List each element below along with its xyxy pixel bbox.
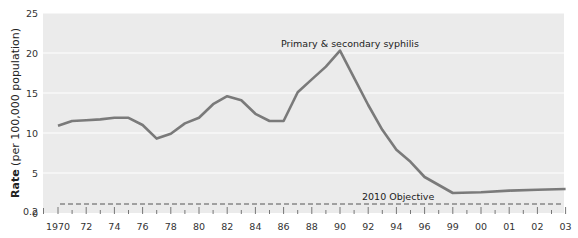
x-tick-label: 90 (334, 221, 346, 232)
y-tick-label: 25 (26, 8, 38, 19)
x-tick-label: 00 (475, 221, 487, 232)
x-tick-label: 99 (447, 221, 459, 232)
objective-label: 2010 Objective (362, 191, 434, 202)
x-tick-label: 01 (503, 221, 515, 232)
x-tick-label: 86 (278, 221, 290, 232)
x-tick-label: 78 (165, 221, 177, 232)
x-tick-label: 1970 (46, 221, 70, 232)
x-tick-label: 88 (306, 221, 318, 232)
x-tick-label: 94 (390, 221, 402, 232)
y-tick-label: 15 (26, 88, 38, 99)
series-label-syphilis: Primary & secondary syphilis (281, 38, 419, 49)
x-tick-label: 80 (193, 221, 205, 232)
x-tick-label: 92 (362, 221, 374, 232)
x-tick-label: 74 (108, 221, 120, 232)
y-tick-label: 10 (26, 128, 38, 139)
x-tick-label: 82 (221, 221, 233, 232)
y-tick-label: 20 (26, 48, 38, 59)
x-tick-label: 96 (419, 221, 431, 232)
line-chart: 00.2510152025 19707274767880828486889092… (0, 0, 578, 238)
y-tick-label: 0.2 (23, 206, 38, 217)
x-tick-label: 03 (560, 221, 572, 232)
x-tick-label: 84 (249, 221, 261, 232)
y-tick-label: 5 (32, 168, 38, 179)
y-axis-ticks: 00.2510152025 (23, 8, 38, 219)
x-tick-label: 02 (531, 221, 543, 232)
x-tick-label: 76 (137, 221, 149, 232)
x-tick-label: 72 (80, 221, 92, 232)
